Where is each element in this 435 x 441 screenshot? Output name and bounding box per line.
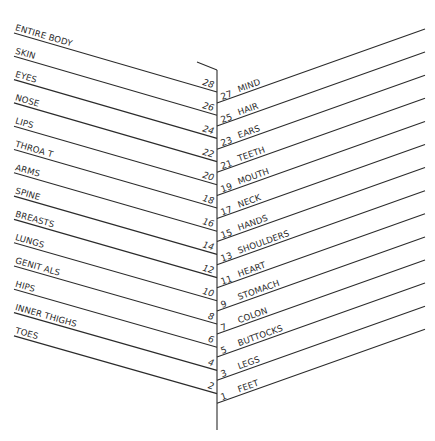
left-branch-toes: TOES2 bbox=[13, 325, 217, 394]
branch-number: 11 bbox=[219, 273, 233, 286]
branch-number: 1 bbox=[219, 391, 228, 402]
branch-number: 13 bbox=[219, 250, 233, 263]
branch-label: LIPS bbox=[14, 116, 34, 131]
diagram-canvas: ENTIRE BODY28SKIN26EYES24NOSE22LIPS20THR… bbox=[0, 0, 435, 441]
branch-number: 23 bbox=[219, 135, 233, 148]
left-branch-eyes: EYES24 bbox=[14, 69, 217, 138]
right-branches: 27MIND25HAIR23EARS21TEETH19MOUTH17NECK15… bbox=[217, 29, 425, 403]
branch-number: 2 bbox=[207, 380, 216, 391]
branch-label: EYES bbox=[14, 69, 38, 85]
branch-number: 7 bbox=[219, 322, 228, 333]
branch-line bbox=[14, 80, 217, 139]
branch-number: 3 bbox=[219, 368, 228, 379]
branch-label: GENIT ALS bbox=[14, 255, 61, 277]
left-branches: ENTIRE BODY28SKIN26EYES24NOSE22LIPS20THR… bbox=[13, 22, 217, 393]
branch-number: 9 bbox=[219, 298, 228, 309]
branch-number: 6 bbox=[207, 334, 216, 345]
left-branch-entire-body: ENTIRE BODY28 bbox=[14, 22, 217, 92]
branch-label: MOUTH bbox=[236, 166, 270, 186]
branch-label: STOMACH bbox=[236, 278, 281, 302]
branch-label: HIPS bbox=[14, 279, 36, 294]
branch-number: 27 bbox=[219, 89, 233, 102]
branch-line bbox=[217, 29, 425, 103]
branch-label: THROA T bbox=[13, 139, 55, 160]
branch-line bbox=[14, 336, 217, 394]
branch-number: 19 bbox=[219, 181, 233, 194]
branch-line bbox=[14, 33, 217, 92]
branch-number: 8 bbox=[207, 311, 216, 322]
left-branch-inner-thighs: INNER THIGHS4 bbox=[14, 302, 217, 370]
right-branch-mind: 27MIND bbox=[217, 29, 425, 103]
branch-number: 21 bbox=[219, 158, 233, 171]
body-map-diagram: ENTIRE BODY28SKIN26EYES24NOSE22LIPS20THR… bbox=[0, 0, 435, 441]
branch-number: 5 bbox=[219, 345, 228, 356]
branch-number: 17 bbox=[219, 204, 233, 217]
branch-number: 15 bbox=[219, 227, 233, 240]
branch-label: BREASTS bbox=[14, 209, 55, 230]
branch-number: 25 bbox=[219, 112, 233, 125]
left-branch-skin: SKIN26 bbox=[14, 46, 217, 115]
branch-number: 4 bbox=[207, 357, 216, 368]
top-cap-line bbox=[197, 62, 217, 70]
left-branch-throa-t: THROA T18 bbox=[13, 139, 217, 208]
branch-label: SKIN bbox=[14, 46, 36, 61]
branch-line bbox=[14, 56, 217, 115]
branch-line bbox=[14, 313, 217, 371]
branch-label: HANDS bbox=[236, 213, 269, 233]
branch-label: COLON bbox=[236, 305, 269, 325]
branch-line bbox=[14, 150, 217, 209]
